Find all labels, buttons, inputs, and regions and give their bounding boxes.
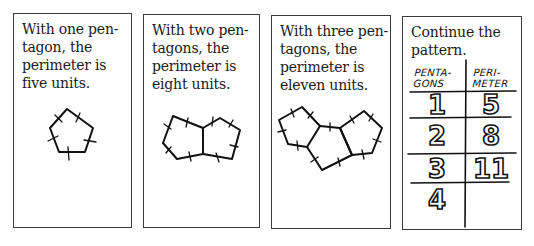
- table-cell-pentagons: 2: [412, 122, 462, 150]
- table-cell-perimeter: 5: [466, 91, 516, 119]
- three-pentagons-figure: [278, 107, 382, 170]
- table-cell-pentagons: 4: [412, 186, 462, 214]
- table-cell-perimeter: 8: [466, 122, 516, 150]
- table-cell-pentagons: 1: [412, 91, 462, 119]
- table-cell-pentagons: 3: [412, 155, 462, 183]
- two-pentagons-figure: [163, 116, 240, 162]
- table-header-pentagons: PENTA- GONS: [413, 67, 452, 89]
- table-cell-perimeter: 11: [466, 155, 516, 183]
- table-header-perimeter: PERI- METER: [472, 67, 509, 89]
- single-pentagon-figure: [48, 109, 96, 160]
